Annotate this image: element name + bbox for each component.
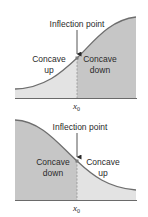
top-right-region-label-line2: down bbox=[90, 65, 111, 75]
bottom-inflection-point-marker bbox=[76, 160, 79, 163]
top-inflection-label: Inflection point bbox=[50, 19, 105, 29]
top-x0-label: x0 bbox=[72, 101, 80, 112]
top-right-region-label-line1: Concave bbox=[83, 54, 117, 64]
bottom-inflection-label: Inflection point bbox=[53, 122, 108, 132]
bottom-right-region-label-line2: up bbox=[98, 168, 108, 178]
bottom-left-region-label-line1: Concave bbox=[36, 157, 70, 167]
bottom-left-region-label-line2: down bbox=[43, 168, 64, 178]
top-left-region-label-line2: up bbox=[44, 65, 54, 75]
top-inflection-point-marker bbox=[76, 57, 79, 60]
top-panel: Inflection point Concave up Concave down… bbox=[15, 17, 137, 112]
bottom-panel: Inflection point Concave down Concave up… bbox=[15, 120, 137, 214]
bottom-x0-label: x0 bbox=[72, 203, 80, 214]
top-left-region-label-line1: Concave bbox=[32, 54, 66, 64]
bottom-right-region-label-line1: Concave bbox=[86, 157, 120, 167]
concavity-diagram: Inflection point Concave up Concave down… bbox=[0, 0, 148, 217]
